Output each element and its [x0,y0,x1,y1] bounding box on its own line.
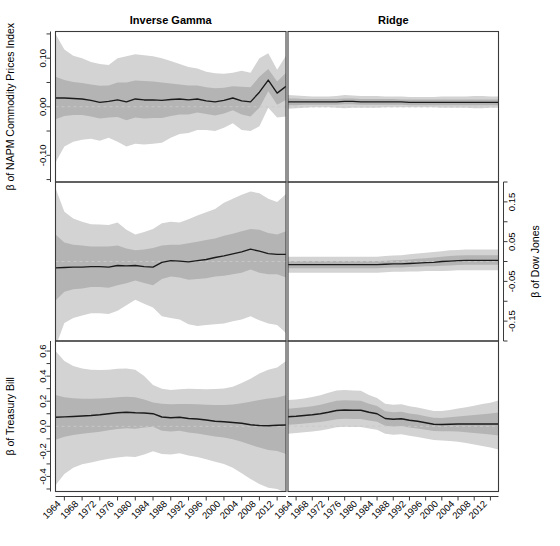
axis-tick-label: 1988 [146,498,169,521]
column-title-inverse-gamma: Inverse Gamma [130,14,213,26]
axis-tick-label: 0.15 [506,193,517,212]
axis-tick-label: 2012 [253,498,276,521]
axis-tick-label: 1992 [164,498,187,521]
figure-root: Inverse GammaRidge0.100.00-0.100.150.05-… [0,0,560,546]
panel-row1-col1 [56,32,287,183]
axis-tick-label: 2000 [200,498,223,521]
axis-tick-label: 1968 [58,498,81,521]
panel-content [288,95,499,109]
axis-tick-label: 1984 [129,498,152,521]
panel-content [288,250,499,273]
axis-tick-label: -0.05 [506,271,517,293]
y-axis-row1-left: 0.100.00-0.10 [37,32,51,183]
panel-content [56,351,287,493]
y-axis-row2-right: 0.150.05-0.05-0.15 [504,182,518,341]
axis-tick-label: 2008 [235,498,258,521]
panel-row3-col2 [288,341,499,492]
axis-tick-label: -0.10 [37,144,48,166]
axis-tick-label: -0.2 [37,443,48,459]
axis-tick-label: 1976 [93,498,116,521]
axis-tick-label: 0.0 [37,420,48,433]
y-axis-title-dow-jones: β of Dow Jones [529,225,541,298]
x-axis-col1: 1964196819721976198019841988199219962000… [40,497,286,521]
axis-tick-label: 0.6 [37,344,48,357]
y-axis-title-treasury-bill: β of Treasury Bill [4,377,16,455]
axis-tick-label: 0.2 [37,395,48,408]
multi-panel-chart: Inverse GammaRidge0.100.00-0.100.150.05-… [0,0,560,546]
panel-content [56,34,287,163]
axis-tick-label: 1972 [76,498,99,521]
axis-tick-label: -0.4 [37,468,48,484]
panel-row1-col2 [288,32,499,183]
x-axis-col2: 1964196819721976198019841988199219962000… [272,497,499,521]
axis-tick-label: 0.00 [37,98,48,117]
axis-tick-label: -0.15 [506,310,517,332]
axis-tick-label: 0.4 [37,370,48,383]
column-title-ridge: Ridge [378,14,409,26]
axis-tick-label: 0.10 [37,49,48,68]
panel-row2-col1 [56,182,287,347]
axis-tick-label: 1980 [111,498,134,521]
panel-content [288,390,499,450]
axis-tick-label: 2004 [217,498,240,521]
axis-tick-label: 1996 [182,498,205,521]
y-axis-title-napm: β of NAPM Commodity Prices Index [4,22,16,190]
panel-row2-col2 [288,182,499,341]
y-axis-row3-left: 0.60.40.20.0-0.2-0.4 [37,341,51,492]
axis-tick-label: 1964 [40,498,63,521]
axis-tick-label: 0.05 [506,232,517,251]
panel-row3-col1 [56,341,287,493]
axis-tick-label: 2012 [466,498,489,521]
panel-content [56,188,287,347]
